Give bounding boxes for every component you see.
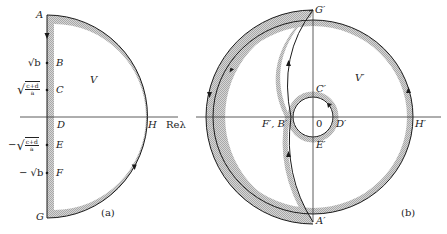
tick-sqrt-frac: √c+da — [17, 81, 40, 96]
label-d-prime: D′ — [336, 119, 346, 129]
region-label-v-prime: V′ — [355, 73, 365, 83]
label-a-prime: A′ — [316, 216, 326, 226]
label-e: E — [56, 140, 63, 150]
label-f-b-prime: F′, B′ — [262, 119, 287, 129]
tick-neg-sqrt-frac: −√c+da — [8, 137, 39, 152]
boundary-shading-a — [47, 15, 147, 218]
point-b — [46, 62, 49, 65]
label-h: H — [148, 120, 157, 130]
label-g-prime: G′ — [315, 5, 325, 15]
panel-a — [20, 15, 178, 218]
axis-label-re-lambda: Reλ — [166, 120, 186, 130]
tick-sqrt-b: √b — [28, 58, 41, 68]
conformal-map-diagram — [0, 0, 447, 234]
label-d: D — [57, 120, 65, 130]
inner-curve-shading — [276, 10, 313, 222]
arrow-inner-up-icon — [286, 60, 291, 66]
caption-b: (b) — [401, 208, 415, 218]
panel-b — [196, 10, 441, 224]
point-e — [46, 144, 49, 147]
half-disk-boundary — [47, 15, 147, 218]
label-b: B — [56, 58, 63, 68]
region-label-v: V — [90, 75, 97, 85]
caption-a: (a) — [101, 208, 115, 218]
label-c: C — [56, 85, 64, 95]
label-c-prime: C′ — [316, 84, 326, 94]
point-c — [46, 89, 49, 92]
label-a: A — [36, 10, 43, 20]
label-e-prime: E′ — [316, 140, 326, 150]
label-h-prime: H′ — [415, 119, 426, 129]
label-g: G — [36, 212, 44, 222]
label-f: F — [56, 168, 63, 178]
label-origin: 0 — [316, 119, 322, 129]
tick-neg-sqrt-b: − √b — [19, 168, 43, 178]
point-f — [46, 172, 49, 175]
